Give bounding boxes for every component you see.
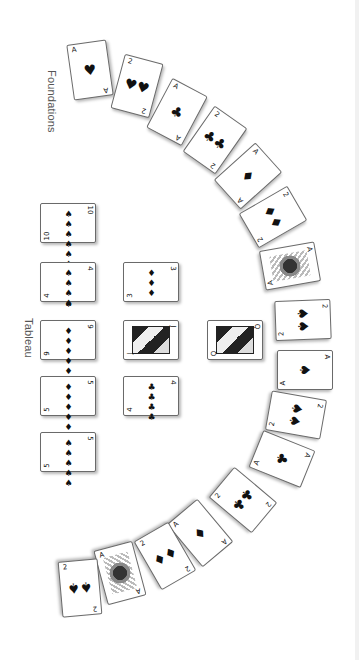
tableau-card[interactable]: 9♦♦♦♦♦♦♦♦♦9 <box>40 320 96 360</box>
card-pips: ♠♠ <box>275 399 317 431</box>
card-index: J <box>127 350 134 358</box>
card-index: A <box>101 85 110 93</box>
card-index: A <box>267 278 275 287</box>
card-index: 2 <box>268 420 276 429</box>
foundation-card[interactable]: A♠A <box>277 350 333 390</box>
card-index: 3 <box>127 292 134 300</box>
card-index: A <box>280 379 287 387</box>
card-index: 10 <box>44 233 51 241</box>
face-card-art <box>132 326 170 354</box>
card-pips: ♦ <box>225 154 271 199</box>
card-pips: ♣♣ <box>220 478 266 522</box>
foundation-card[interactable]: 2♠♠2 <box>274 299 331 341</box>
tableau-card[interactable]: 4♣♣♣♣4 <box>123 376 179 416</box>
card-pips: ♠♠♠♠♠♠♠♠♠♠ <box>49 209 87 237</box>
foundation-card[interactable]: 2♠♠2 <box>265 390 327 439</box>
card-index: Q <box>211 350 218 358</box>
card-index: 2 <box>208 160 219 170</box>
card-pips: ♦♦♦♦♦ <box>49 382 87 410</box>
card-index: 4 <box>44 292 51 300</box>
card-index: A <box>323 353 330 361</box>
card-pips: ♠ <box>286 357 324 383</box>
tableau-card[interactable]: 4♠♠♠♠4 <box>40 262 96 302</box>
edge-strip <box>355 0 359 660</box>
card-index: 9 <box>44 350 51 358</box>
card-pips: ♠♠♠♠ <box>49 268 87 296</box>
card-pips: ♠♠ <box>65 568 94 608</box>
tableau-card[interactable]: QQ <box>207 320 263 360</box>
decorated-ace-art <box>269 250 311 282</box>
card-index: 5 <box>44 406 51 414</box>
foundation-card[interactable]: AA <box>259 241 321 290</box>
card-pips: ♣♣ <box>193 117 236 163</box>
foundation-card[interactable]: 2♣♣2 <box>209 467 278 534</box>
card-pips: ♦♦♦ <box>132 268 170 296</box>
card-pips: ♣ <box>157 89 198 135</box>
card-pips: ♥ <box>74 49 105 90</box>
card-pips: ♣ <box>260 440 305 478</box>
tableau-card[interactable]: 5♠♠♠♠♠5 <box>40 432 96 472</box>
card-index: 2 <box>278 330 285 338</box>
tableau-card[interactable]: 3♦♦♦3 <box>123 262 179 302</box>
foundation-card[interactable]: A♥A <box>66 39 113 100</box>
tableau-card[interactable]: 10♠♠♠♠♠♠♠♠♠♠10 <box>40 203 96 243</box>
face-card-art <box>216 326 254 354</box>
card-index: A <box>173 132 183 142</box>
card-index: 5 <box>44 462 51 470</box>
card-pips: ♣♣♣♣ <box>132 382 170 410</box>
card-pips: ♦♦ <box>250 196 296 238</box>
card-index: 4 <box>127 406 134 414</box>
foundation-card[interactable]: 2♠♠2 <box>58 558 103 617</box>
card-pips: ♥♥ <box>120 64 155 107</box>
card-index: 2 <box>61 564 70 572</box>
decorated-ace-art <box>103 551 138 594</box>
card-pips: ♠♠♠♠♠ <box>49 438 87 466</box>
foundation-card[interactable]: A♣A <box>249 430 316 488</box>
card-pips: ♠♠ <box>284 306 323 333</box>
tableau-card[interactable]: 5♦♦♦♦♦5 <box>40 376 96 416</box>
tableau-label: Tableau <box>23 318 35 358</box>
card-pips: ♦♦♦♦♦♦♦♦♦ <box>49 326 87 354</box>
card-index: A <box>252 458 261 468</box>
tableau-card[interactable]: JJ <box>123 320 179 360</box>
card-index: 2 <box>139 106 149 115</box>
foundations-label: Foundations <box>46 70 58 133</box>
